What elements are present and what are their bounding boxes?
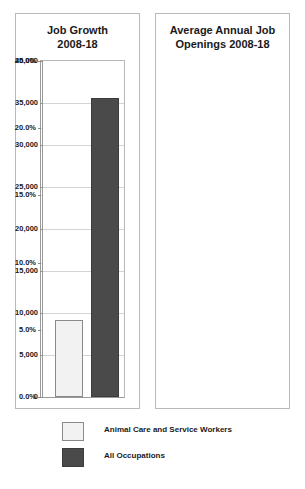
chart-panel-job-openings: Average Annual Job Openings 2008-18 — [155, 13, 290, 409]
y-axis-tick-label: 15.0% — [15, 191, 36, 199]
plot-area-job-openings: 05,00010,00015,00020,00025,00030,00035,0… — [42, 60, 125, 398]
y-axis-tick — [38, 330, 41, 331]
y-axis-tick — [40, 145, 43, 146]
y-axis-tick-label: 20.0% — [15, 124, 36, 132]
y-axis-tick — [40, 397, 43, 398]
chart-title-line-2: Openings 2008-18 — [156, 37, 289, 51]
legend-label-all-occupations: All Occupations — [104, 450, 165, 462]
y-axis-tick — [40, 229, 43, 230]
y-axis-tick-label: 40,000 — [15, 57, 38, 65]
chart-title-line-1: Average Annual Job — [170, 24, 276, 36]
legend-label-animal-care: Animal Care and Service Workers — [104, 424, 232, 436]
y-axis-tick-label: 15,000 — [15, 267, 38, 275]
chart-title-line-2: 2008-18 — [16, 37, 139, 51]
y-axis-tick-label: 30,000 — [15, 141, 38, 149]
y-axis-tick — [40, 103, 43, 104]
y-axis-tick-label: 10,000 — [15, 309, 38, 317]
y-axis-tick-label: 5,000 — [19, 351, 38, 359]
chart-title-job-growth: Job Growth 2008-18 — [16, 23, 139, 51]
y-axis-tick-label: 5.0% — [19, 326, 36, 334]
y-axis-tick-label: 0 — [34, 393, 38, 401]
legend-swatch-icon-all-occupations — [62, 448, 84, 467]
y-axis-tick-label: 25,000 — [15, 183, 38, 191]
bar-animal-care — [55, 320, 83, 397]
y-axis-tick — [38, 263, 41, 264]
y-axis-tick — [38, 128, 41, 129]
bar-all-occupations — [91, 98, 119, 397]
y-axis-tick-label: 20,000 — [15, 225, 38, 233]
y-axis-tick — [40, 313, 43, 314]
bls-occupation-comparison-figure: Job Growth 2008-18 0.0%5.0%10.0%15.0%20.… — [0, 0, 305, 489]
chart-title-line-1: Job Growth — [47, 24, 108, 36]
chart-legend: Animal Care and Service Workers All Occu… — [62, 420, 297, 472]
chart-title-job-openings: Average Annual Job Openings 2008-18 — [156, 23, 289, 51]
y-axis-tick — [38, 195, 41, 196]
legend-item-animal-care: Animal Care and Service Workers — [62, 420, 297, 446]
y-axis-tick — [40, 187, 43, 188]
y-axis-tick-label: 35,000 — [15, 99, 38, 107]
y-axis-tick — [40, 271, 43, 272]
y-axis-tick — [40, 355, 43, 356]
legend-swatch-icon-animal-care — [62, 422, 84, 441]
y-axis-tick — [40, 61, 43, 62]
legend-item-all-occupations: All Occupations — [62, 446, 297, 472]
